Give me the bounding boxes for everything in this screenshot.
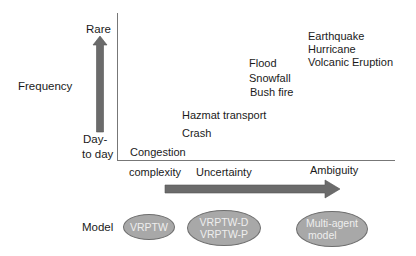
event-snowfall: Snowfall (249, 72, 291, 85)
model-vrptw-d-label: VRPTW-D (200, 216, 249, 228)
model-vrptw-p-label: VRPTW-P (200, 228, 248, 240)
uncertainty-label: Uncertainty (196, 166, 252, 179)
rare-label: Rare (86, 23, 111, 36)
model-vrptw-label: VRPTW (130, 221, 168, 233)
event-hurricane: Hurricane (308, 43, 356, 56)
model-multi-agent-label-line2: model (308, 229, 337, 241)
model-row-label: Model (82, 221, 113, 234)
model-vrptw: VRPTW (123, 214, 175, 240)
model-multi-agent: Multi-agent model (296, 211, 368, 247)
frequency-up-arrow-icon (92, 36, 108, 132)
scale-right-arrow-icon (165, 179, 345, 199)
event-earthquake: Earthquake (308, 30, 364, 43)
event-volcanic-eruption: Volcanic Eruption (308, 56, 393, 69)
model-vrptw-d-p: VRPTW-D VRPTW-P (187, 210, 261, 246)
event-bush-fire: Bush fire (250, 86, 293, 99)
event-flood: Flood (249, 57, 277, 70)
y-axis-line (117, 13, 118, 160)
day-to-day-label-line2: to day (82, 148, 113, 161)
ambiguity-label: Ambiguity (310, 164, 358, 177)
complexity-label: complexity (129, 166, 181, 179)
x-axis-line (117, 160, 395, 161)
model-multi-agent-label-line1: Multi-agent (306, 217, 358, 229)
event-congestion: Congestion (130, 146, 186, 159)
day-to-day-label-line1: Day- (83, 133, 107, 146)
event-hazmat-transport: Hazmat transport (182, 109, 266, 122)
event-crash: Crash (182, 127, 211, 140)
frequency-axis-title: Frequency (18, 80, 72, 93)
